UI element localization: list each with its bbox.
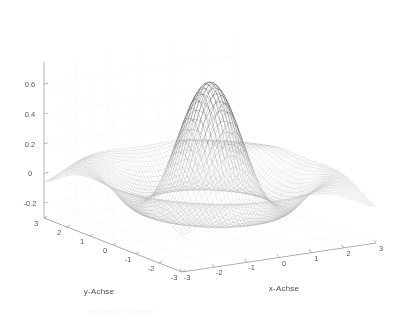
z-tick-label-1: 0 bbox=[28, 169, 32, 178]
mesh-plot-canvas bbox=[0, 0, 398, 316]
y-tick-label-2: -1 bbox=[125, 255, 132, 264]
z-tick-label-2: 0.2 bbox=[25, 139, 35, 148]
figure-caption: Abbildung: 3D-Gitternetz bbox=[88, 308, 154, 314]
x-tick-label-5: 2 bbox=[347, 248, 351, 257]
x-tick-label-3: 0 bbox=[282, 258, 286, 267]
z-tick-label-4: 0.6 bbox=[25, 80, 35, 89]
x-tick-label-1: -2 bbox=[216, 268, 223, 277]
y-axis-label: y-Achse bbox=[84, 287, 114, 296]
x-tick-label-2: -1 bbox=[248, 263, 255, 272]
y-tick-label-5: 2 bbox=[57, 228, 61, 237]
figure-canvas-container: x-Achse y-Achse -0.200.20.40.6-3-2-10123… bbox=[0, 0, 398, 316]
x-axis-label: x-Achse bbox=[269, 284, 299, 293]
y-tick-label-3: 0 bbox=[103, 246, 107, 255]
x-tick-label-4: 1 bbox=[314, 253, 318, 262]
y-tick-label-1: -2 bbox=[148, 264, 155, 273]
x-tick-label-6: 3 bbox=[379, 244, 383, 253]
y-tick-label-6: 3 bbox=[34, 219, 38, 228]
x-tick-label-0: -3 bbox=[184, 273, 191, 282]
z-tick-label-0: -0.2 bbox=[24, 199, 37, 208]
z-tick-label-3: 0.4 bbox=[25, 110, 35, 119]
y-tick-label-0: -3 bbox=[171, 273, 178, 282]
y-tick-label-4: 1 bbox=[80, 237, 84, 246]
